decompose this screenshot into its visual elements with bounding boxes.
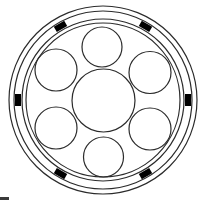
satellite-circle-bottom: [84, 137, 124, 177]
cable-cross-section-diagram: [0, 0, 205, 200]
outer-ring-1: [9, 6, 197, 194]
spacer-markers: [15, 21, 191, 179]
central-circle: [72, 69, 135, 132]
satellite-circle-lower-right: [129, 108, 171, 150]
diagram-stage: [0, 0, 205, 200]
outer-rings: [9, 6, 197, 194]
cutoff-text-fragment: [0, 197, 9, 200]
spacer-marker-1: [185, 94, 191, 106]
outer-ring-3: [22, 19, 184, 181]
satellite-circles: [35, 27, 171, 177]
satellite-circle-upper-right: [129, 52, 171, 94]
satellite-circle-top: [82, 27, 122, 67]
outer-ring-2: [14, 11, 192, 189]
satellite-circle-lower-left: [35, 107, 77, 149]
outer-ring-4: [26, 23, 180, 177]
spacer-marker-4: [15, 94, 21, 106]
satellite-circle-upper-left: [35, 49, 77, 91]
central-circle-group: [72, 69, 135, 132]
